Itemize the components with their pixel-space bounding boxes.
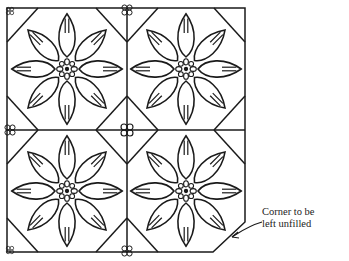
flower-bottom-left (12, 136, 122, 246)
flower-top-right (131, 14, 241, 124)
flower-top-left (12, 14, 122, 124)
annotation-line-1: Corner to be (262, 206, 315, 218)
annotation-line-2: left unfilled (262, 218, 315, 230)
flower-bottom-right (131, 136, 241, 246)
annotation-label: Corner to be left unfilled (262, 206, 315, 230)
